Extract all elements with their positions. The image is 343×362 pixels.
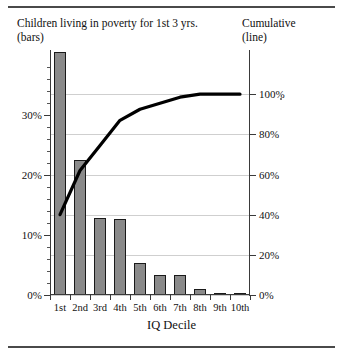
legend-line-line2: (line)	[242, 30, 296, 44]
left-axis-label: 10%	[22, 230, 42, 241]
x-axis-tick	[230, 295, 231, 300]
stray-speck-mark	[280, 98, 282, 100]
x-axis-tick	[110, 295, 111, 300]
right-axis-tick	[249, 94, 256, 95]
x-axis-label-6th: 6th	[153, 302, 166, 313]
x-axis-label-1st: 1st	[54, 302, 66, 313]
left-axis-tick	[44, 115, 50, 116]
left-axis-minor-tick	[47, 79, 50, 80]
left-axis-minor-tick	[47, 247, 50, 248]
x-axis-label-9th: 9th	[213, 302, 226, 313]
left-axis-label: 30%	[22, 110, 42, 121]
right-axis-tick	[249, 175, 256, 176]
x-axis-tick	[210, 295, 211, 300]
legend-bars-line1: Children living in poverty for 1st 3 yrs…	[17, 17, 198, 29]
x-axis-tick	[150, 295, 151, 300]
left-axis-minor-tick	[47, 67, 50, 68]
plot-area: 0%10%20%30% 0%20%40%60%80%100% 1st2nd3rd…	[50, 50, 250, 295]
x-axis-tick	[70, 295, 71, 300]
legend-bars-line2: (bars)	[17, 30, 198, 44]
left-axis-tick	[44, 175, 50, 176]
left-axis-minor-tick	[47, 91, 50, 92]
x-axis-title: IQ Decile	[0, 318, 343, 333]
x-axis-tick	[170, 295, 171, 300]
x-axis-label-7th: 7th	[173, 302, 186, 313]
bottom-divider-rule	[8, 346, 335, 348]
right-axis-label: 20%	[259, 250, 279, 261]
x-axis-label-4th: 4th	[113, 302, 126, 313]
left-axis-label: 20%	[22, 170, 42, 181]
legend-line-line1: Cumulative	[242, 17, 296, 29]
x-axis-label-5th: 5th	[133, 302, 146, 313]
x-axis-tick	[50, 295, 51, 300]
right-axis-label: 80%	[259, 129, 279, 140]
left-axis-minor-tick	[47, 187, 50, 188]
cumulative-line-series	[50, 50, 250, 295]
left-axis-minor-tick	[47, 163, 50, 164]
left-axis-tick	[44, 235, 50, 236]
x-axis-tick	[90, 295, 91, 300]
right-axis-tick	[249, 255, 256, 256]
right-axis-line	[249, 50, 250, 295]
x-axis-label-2nd: 2nd	[72, 302, 88, 313]
top-divider-rule	[8, 6, 335, 8]
x-axis-label-8th: 8th	[193, 302, 206, 313]
left-axis-minor-tick	[47, 103, 50, 104]
left-axis-minor-tick	[47, 199, 50, 200]
left-axis-minor-tick	[47, 283, 50, 284]
right-axis-label: 0%	[259, 290, 274, 301]
left-axis-minor-tick	[47, 259, 50, 260]
x-axis-tick	[250, 295, 251, 300]
right-axis-tick	[249, 215, 256, 216]
x-axis-label-10th: 10th	[231, 302, 250, 313]
right-axis-tick	[249, 134, 256, 135]
legend-bars-caption: Children living in poverty for 1st 3 yrs…	[17, 16, 198, 44]
right-axis-label: 40%	[259, 210, 279, 221]
right-axis-label: 60%	[259, 170, 279, 181]
chart-figure: Children living in poverty for 1st 3 yrs…	[0, 0, 343, 362]
left-axis-minor-tick	[47, 139, 50, 140]
left-axis-minor-tick	[47, 211, 50, 212]
left-axis-minor-tick	[47, 223, 50, 224]
left-axis-label: 0%	[27, 290, 42, 301]
x-axis-label-3rd: 3rd	[93, 302, 107, 313]
legend-line-caption: Cumulative (line)	[242, 16, 296, 44]
left-axis-minor-tick	[47, 151, 50, 152]
x-axis-tick	[130, 295, 131, 300]
left-axis-line	[50, 50, 51, 295]
left-axis-minor-tick	[47, 271, 50, 272]
left-axis-minor-tick	[47, 127, 50, 128]
x-axis-tick	[190, 295, 191, 300]
